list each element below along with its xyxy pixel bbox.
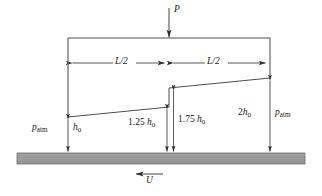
pad-lower-face-first-half [68,107,169,117]
pad-lower-face-second-half [169,78,270,88]
label-gap-1-25-h0: 1.25 h0 [128,118,155,129]
slider-bearing-figure: P L/2 L/2 patm h0 1.25 h0 1.75 h0 2h0 pa… [0,0,322,196]
label-pressure-atm-right: patm [275,108,291,119]
bearing-pad-outline [68,38,270,117]
label-load-P: P [174,5,180,15]
label-length-left-half: L/2 [115,57,128,67]
figure-drawing [0,0,322,196]
label-pressure-atm-left: patm [32,123,48,134]
moving-wall [17,153,305,164]
wall-band [17,153,305,164]
label-gap-1-75-h0: 1.75 h0 [178,115,205,126]
label-length-right-half: L/2 [207,57,220,67]
label-gap-h0-inlet: h0 [73,123,81,134]
label-gap-2-h0: 2h0 [238,108,251,119]
label-wall-velocity-U: U [146,176,153,186]
